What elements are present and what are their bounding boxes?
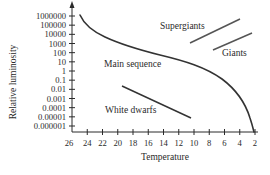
x-tick-label: 4	[238, 138, 243, 148]
x-tick-label: 8	[207, 138, 211, 148]
y-axis-title: Relative luminosity	[8, 44, 18, 119]
x-axis-title: Temperature	[141, 152, 189, 162]
x-tick-label: 18	[129, 138, 138, 148]
x-tick-label: 16	[144, 138, 153, 148]
x-axis: 2624222018161412108642	[65, 129, 258, 148]
x-tick-label: 10	[190, 138, 199, 148]
white-dwarfs-label: White dwarfs	[105, 105, 157, 115]
supergiants-label: Supergiants	[160, 21, 205, 31]
giants-label: Giants	[222, 48, 247, 58]
main-sequence-label: Main sequence	[104, 59, 161, 69]
y-axis-ticks: 10000001000001000010001001010.10.010.001…	[34, 11, 75, 131]
y-axis: 10000001000001000010001001010.10.010.001…	[34, 1, 75, 132]
hr-diagram-chart: 10000001000001000010001001010.10.010.001…	[0, 0, 270, 175]
y-tick-label: 0.000001	[34, 121, 66, 131]
y-axis-arrow-icon	[70, 1, 75, 8]
x-tick-label: 26	[65, 138, 74, 148]
x-tick-label: 2	[253, 138, 257, 148]
x-tick-label: 14	[159, 138, 168, 148]
x-tick-label: 24	[83, 138, 92, 148]
x-tick-label: 12	[174, 138, 183, 148]
x-tick-label: 22	[98, 138, 107, 148]
x-tick-label: 20	[113, 138, 122, 148]
x-tick-label: 6	[222, 138, 227, 148]
